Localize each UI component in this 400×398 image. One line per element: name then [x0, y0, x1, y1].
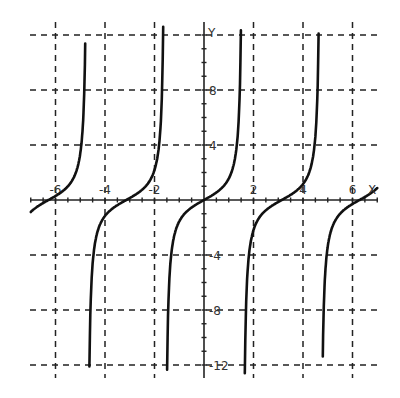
tan-function-plot: -6-4-224684-4-8-12 X Y	[0, 0, 400, 398]
x-tick-label: 2	[250, 183, 258, 197]
y-tick-label: -4	[209, 249, 221, 263]
x-tick-label: -2	[149, 183, 161, 197]
y-tick-label: -12	[209, 359, 229, 373]
tick-labels: -6-4-224684-4-8-12	[50, 84, 357, 373]
y-tick-label: -8	[209, 304, 221, 318]
y-tick-label: 8	[209, 84, 217, 98]
x-tick-label: -4	[99, 183, 111, 197]
x-tick-label: 6	[349, 183, 357, 197]
tan-branch	[323, 188, 378, 357]
y-tick-label: 4	[209, 139, 217, 153]
y-axis-label: Y	[207, 26, 216, 40]
x-axis-label: X	[368, 183, 376, 197]
tan-branch	[245, 34, 319, 374]
